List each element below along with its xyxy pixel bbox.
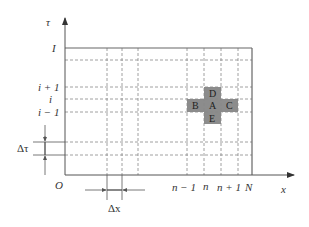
cell-label-b: B (192, 100, 199, 111)
col-label-n-plus-1: n + 1 (217, 181, 241, 193)
col-label-n-minus-1: n − 1 (172, 181, 196, 193)
row-label-top: I (51, 42, 57, 54)
delta-x-label: Δx (108, 202, 121, 214)
x-axis-label: x (280, 183, 286, 195)
row-label-i: i (49, 93, 52, 105)
col-label-right: N (244, 181, 253, 193)
delta-tau-label: Δτ (17, 142, 29, 154)
delta-x-indicator (85, 175, 145, 200)
origin-label: O (55, 179, 63, 191)
tau-axis-label: τ (46, 16, 51, 28)
grid-diagram: τ x O I i + 1 i i − 1 n − 1 n n + 1 N Δτ… (0, 0, 309, 227)
row-label-i-plus-1: i + 1 (38, 81, 59, 93)
row-label-i-minus-1: i − 1 (38, 106, 59, 118)
cell-label-d: D (209, 88, 216, 99)
col-label-n: n (203, 180, 209, 192)
delta-tau-indicator (33, 125, 65, 175)
cell-label-c: C (226, 100, 233, 111)
cell-label-a: A (209, 100, 217, 111)
cell-label-e: E (209, 113, 215, 124)
